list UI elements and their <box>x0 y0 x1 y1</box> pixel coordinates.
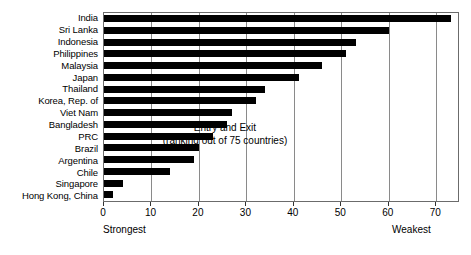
axis-tick <box>245 202 246 206</box>
bar-row <box>104 131 458 143</box>
category-label: Brazil <box>0 143 101 155</box>
axis-tick-label: 60 <box>382 207 393 218</box>
bar-row <box>104 84 458 96</box>
category-label: PRC <box>0 131 101 143</box>
axis-tick <box>293 202 294 206</box>
axis-end-label-weakest: Weakest <box>392 224 431 235</box>
category-label: Malaysia <box>0 60 101 72</box>
category-label: Singapore <box>0 178 101 190</box>
bar-row <box>104 154 458 166</box>
category-label: Japan <box>0 71 101 83</box>
axis-tick <box>198 202 199 206</box>
category-label: India <box>0 12 101 24</box>
entry-and-exit-bar-chart: IndiaSri LankaIndonesiaPhilippinesMalays… <box>0 0 471 255</box>
category-label: Philippines <box>0 48 101 60</box>
bar-row <box>104 48 458 60</box>
axis-tick <box>103 202 104 206</box>
category-label: Argentina <box>0 155 101 167</box>
bar <box>104 15 451 22</box>
category-label: Viet Nam <box>0 107 101 119</box>
plot-area <box>103 12 459 202</box>
axis-tick <box>388 202 389 206</box>
category-label: Hong Kong, China <box>0 190 101 202</box>
bar-row <box>104 119 458 131</box>
axis-tick-label: 20 <box>192 207 203 218</box>
bar <box>104 180 123 187</box>
bar-row <box>104 142 458 154</box>
bar-row <box>104 178 458 190</box>
bar <box>104 191 113 198</box>
axis-tick-label: 70 <box>430 207 441 218</box>
bar <box>104 121 227 128</box>
axis-tick-label: 50 <box>335 207 346 218</box>
axis-tick-label: 10 <box>145 207 156 218</box>
category-label: Sri Lanka <box>0 24 101 36</box>
axis-tick-label: 40 <box>287 207 298 218</box>
bar-series <box>104 13 458 201</box>
bar-row <box>104 189 458 201</box>
bar <box>104 74 299 81</box>
bar <box>104 62 322 69</box>
bar <box>104 156 194 163</box>
axis-tick <box>340 202 341 206</box>
axis-end-label-strongest: Strongest <box>103 224 146 235</box>
bar-row <box>104 25 458 37</box>
bar-row <box>104 95 458 107</box>
bar <box>104 97 256 104</box>
axis-tick-label: 0 <box>100 207 106 218</box>
bar <box>104 144 199 151</box>
bar <box>104 27 389 34</box>
category-label: Indonesia <box>0 36 101 48</box>
bar <box>104 39 356 46</box>
bar-row <box>104 37 458 49</box>
axis-tick <box>150 202 151 206</box>
category-axis-labels: IndiaSri LankaIndonesiaPhilippinesMalays… <box>0 12 101 202</box>
bar <box>104 50 346 57</box>
category-label: Korea, Rep. of <box>0 95 101 107</box>
bar <box>104 133 213 140</box>
bar-row <box>104 60 458 72</box>
bar-row <box>104 166 458 178</box>
bar <box>104 109 232 116</box>
bar-row <box>104 72 458 84</box>
bar-row <box>104 107 458 119</box>
bar <box>104 168 170 175</box>
bar <box>104 86 265 93</box>
bar-row <box>104 13 458 25</box>
category-label: Chile <box>0 166 101 178</box>
category-label: Bangladesh <box>0 119 101 131</box>
category-label: Thailand <box>0 83 101 95</box>
axis-tick <box>435 202 436 206</box>
axis-tick-label: 30 <box>240 207 251 218</box>
